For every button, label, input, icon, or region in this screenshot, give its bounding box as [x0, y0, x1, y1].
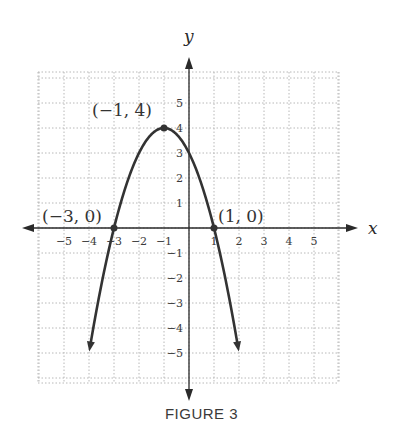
- y-tick-label: −3: [167, 297, 183, 310]
- point-label: (−3, 0): [42, 206, 102, 226]
- y-tick-label: 1: [176, 197, 183, 210]
- x-tick-label: −3: [106, 235, 122, 248]
- y-tick-label: 2: [176, 172, 183, 185]
- y-tick-label: −2: [167, 272, 183, 285]
- x-axis-label: x: [368, 218, 378, 238]
- y-tick-label: 3: [176, 147, 183, 160]
- point-marker: [161, 125, 168, 132]
- curve-arrow-icon: [233, 341, 241, 352]
- x-axis-left-arrow-icon: [22, 224, 34, 232]
- x-tick-label: −4: [81, 235, 97, 248]
- y-tick-label: −4: [167, 322, 183, 335]
- y-axis-label: y: [183, 26, 194, 46]
- point-label: (1, 0): [218, 206, 264, 226]
- y-tick-label: 5: [176, 97, 183, 110]
- parabola-chart: xy −5−4−3−2−112345−5−4−3−2−112345 (−1, 4…: [0, 0, 403, 440]
- x-tick-label: 5: [311, 235, 318, 248]
- figure-caption: FIGURE 3: [0, 405, 403, 422]
- x-tick-label: −2: [131, 235, 147, 248]
- point-marker: [111, 225, 118, 232]
- x-axis-right-arrow-icon: [346, 224, 358, 232]
- y-axis-bottom-arrow-icon: [185, 389, 193, 401]
- point-marker: [211, 225, 218, 232]
- curve-arrow-icon: [87, 341, 95, 352]
- x-tick-label: 2: [236, 235, 243, 248]
- point-label: (−1, 4): [92, 100, 152, 120]
- y-axis-top-arrow-icon: [185, 57, 193, 69]
- y-tick-label: −5: [167, 347, 183, 360]
- y-tick-label: −1: [167, 247, 183, 260]
- x-tick-label: 4: [286, 235, 293, 248]
- x-tick-label: −5: [56, 235, 72, 248]
- x-tick-label: 3: [261, 235, 268, 248]
- labeled-points: (−1, 4)(−3, 0)(1, 0): [42, 100, 264, 232]
